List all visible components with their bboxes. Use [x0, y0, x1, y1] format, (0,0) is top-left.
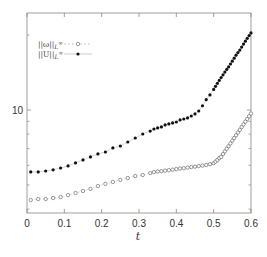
- axis-tick-labels: 00.10.20.30.40.50.610: [12, 105, 259, 230]
- data-point: [233, 57, 236, 60]
- x-tick-label: 0.1: [57, 218, 71, 229]
- x-tick-label: 0.5: [207, 218, 221, 229]
- data-point: [205, 163, 208, 166]
- data-point: [182, 166, 185, 169]
- x-tick-label: 0.3: [132, 218, 146, 229]
- data-point: [238, 49, 241, 52]
- data-point: [51, 196, 54, 199]
- data-point: [81, 158, 84, 161]
- data-point: [152, 170, 155, 173]
- data-point: [175, 120, 178, 123]
- y-tick-label: 10: [12, 105, 24, 116]
- data-point: [171, 121, 174, 124]
- data-point: [141, 132, 144, 135]
- data-point: [160, 169, 163, 172]
- data-point: [66, 193, 69, 196]
- data-point: [208, 93, 211, 96]
- data-point: [134, 174, 137, 177]
- x-tick-label: 0.4: [169, 218, 183, 229]
- series-line: [31, 33, 251, 172]
- data-point: [44, 169, 47, 172]
- legend-item: ||ω||L∞: [38, 40, 92, 50]
- data-point: [74, 191, 77, 194]
- data-point: [149, 171, 152, 174]
- data-point: [221, 73, 224, 76]
- data-point: [225, 68, 228, 71]
- data-point: [201, 164, 204, 167]
- data-point: [96, 152, 99, 155]
- data-point: [149, 129, 152, 132]
- data-point: [227, 65, 230, 68]
- data-point: [164, 123, 167, 126]
- legend-item: ||U||L∞: [38, 50, 92, 60]
- data-point: [74, 161, 77, 164]
- data-point: [212, 88, 215, 91]
- x-tick-label: 0.6: [244, 218, 258, 229]
- legend-label: ||ω||L∞: [38, 40, 63, 50]
- data-point: [66, 164, 69, 167]
- data-point: [163, 169, 166, 172]
- legend-label: ||U||L∞: [38, 50, 63, 60]
- data-point: [29, 170, 32, 173]
- data-point: [119, 178, 122, 181]
- data-point: [37, 197, 40, 200]
- data-point: [197, 109, 200, 112]
- legend-marker: [76, 52, 79, 55]
- data-point: [244, 40, 247, 43]
- data-point: [126, 140, 129, 143]
- data-point: [246, 37, 249, 40]
- data-point: [193, 112, 196, 115]
- data-point: [190, 165, 193, 168]
- data-point: [201, 104, 204, 107]
- data-point: [89, 187, 92, 190]
- data-point: [156, 126, 159, 129]
- data-point: [167, 122, 170, 125]
- data-point: [141, 173, 144, 176]
- data-point: [44, 197, 47, 200]
- data-point: [96, 184, 99, 187]
- data-point: [160, 125, 163, 128]
- data-point: [208, 162, 211, 165]
- data-point: [126, 176, 129, 179]
- data-series: [29, 31, 253, 201]
- data-point: [59, 166, 62, 169]
- data-point: [119, 144, 122, 147]
- data-point: [156, 170, 159, 173]
- x-axis-label: t: [136, 230, 141, 243]
- data-point: [186, 116, 189, 119]
- data-point: [234, 54, 237, 57]
- data-point: [175, 167, 178, 170]
- data-point: [111, 180, 114, 183]
- data-point: [214, 85, 217, 88]
- data-point: [89, 155, 92, 158]
- data-point: [223, 70, 226, 73]
- data-point: [205, 98, 208, 101]
- data-point: [59, 195, 62, 198]
- x-tick-label: 0.2: [95, 218, 109, 229]
- data-point: [29, 198, 32, 201]
- data-point: [178, 118, 181, 121]
- data-point: [104, 182, 107, 185]
- data-point: [186, 166, 189, 169]
- legend-marker: [76, 42, 79, 45]
- data-point: [81, 189, 84, 192]
- data-point: [134, 136, 137, 139]
- data-point: [167, 169, 170, 172]
- series-omega: [29, 112, 253, 202]
- data-point: [152, 127, 155, 130]
- chart: 00.10.20.30.40.50.610 ||ω||L∞||U||L∞ t: [0, 0, 267, 257]
- data-point: [182, 117, 185, 120]
- data-point: [111, 146, 114, 149]
- data-point: [193, 165, 196, 168]
- data-point: [242, 42, 245, 45]
- data-point: [220, 76, 223, 79]
- x-tick-label: 0: [24, 218, 30, 229]
- data-point: [231, 60, 234, 63]
- data-point: [249, 31, 252, 34]
- data-point: [171, 168, 174, 171]
- data-point: [216, 82, 219, 85]
- data-point: [240, 45, 243, 48]
- data-point: [249, 112, 252, 115]
- data-point: [190, 114, 193, 117]
- data-point: [37, 170, 40, 173]
